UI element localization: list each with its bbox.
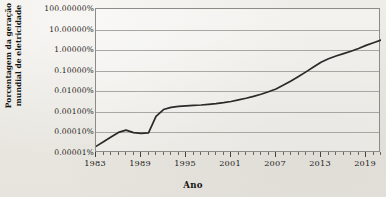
x-minor-tick [103, 152, 104, 155]
x-minor-tick [343, 152, 344, 155]
x-minor-tick [155, 152, 156, 155]
x-minor-tick [223, 152, 224, 155]
x-minor-tick [305, 152, 306, 155]
y-tick-label: 10.00000% [49, 24, 94, 33]
y-axis-title-line1: Porcentagem da geração [4, 0, 14, 121]
x-major-tick [275, 152, 276, 157]
x-minor-tick [260, 152, 261, 155]
x-minor-tick [335, 152, 336, 155]
x-tick-label: 1995 [174, 158, 196, 168]
x-tick-label: 2013 [309, 158, 331, 168]
x-minor-tick [215, 152, 216, 155]
x-minor-tick [283, 152, 284, 155]
data-series-line [96, 9, 381, 153]
x-minor-tick [208, 152, 209, 155]
y-tick-label: 100.00000% [44, 4, 94, 13]
x-minor-tick [358, 152, 359, 155]
x-major-tick [320, 152, 321, 157]
x-minor-tick [133, 152, 134, 155]
x-minor-tick [163, 152, 164, 155]
y-tick-label: 0.10000% [54, 65, 94, 74]
x-minor-tick [268, 152, 269, 155]
y-tick-label: 0.01000% [54, 86, 94, 95]
x-minor-tick [170, 152, 171, 155]
x-major-tick [365, 152, 366, 157]
x-minor-tick [245, 152, 246, 155]
x-minor-tick [110, 152, 111, 155]
x-major-tick [140, 152, 141, 157]
x-minor-tick [328, 152, 329, 155]
y-tick-label: 0.00001% [54, 148, 94, 157]
plot-area [95, 8, 380, 152]
x-tick-label: 2019 [354, 158, 376, 168]
x-axis-title: Ano [0, 180, 386, 190]
x-minor-tick [148, 152, 149, 155]
x-tick-label: 1989 [129, 158, 151, 168]
y-axis-title: Porcentagem da geração mundial de eletri… [4, 0, 23, 121]
x-major-tick [185, 152, 186, 157]
y-tick-label: 1.00000% [54, 45, 94, 54]
y-axis-title-line2: mundial de eletricidade [13, 0, 23, 121]
x-minor-tick [200, 152, 201, 155]
x-minor-tick [380, 152, 381, 155]
x-minor-tick [298, 152, 299, 155]
x-minor-tick [238, 152, 239, 155]
x-major-tick [95, 152, 96, 157]
x-minor-tick [290, 152, 291, 155]
x-tick-label: 2001 [219, 158, 241, 168]
y-tick-label: 0.00100% [54, 106, 94, 115]
x-minor-tick [118, 152, 119, 155]
x-minor-tick [373, 152, 374, 155]
x-minor-tick [125, 152, 126, 155]
x-minor-tick [313, 152, 314, 155]
x-minor-tick [350, 152, 351, 155]
chart-figure: 100.00000% 10.00000% 1.00000% 0.10000% 0… [0, 0, 386, 197]
x-major-tick [230, 152, 231, 157]
x-minor-tick [253, 152, 254, 155]
x-minor-tick [193, 152, 194, 155]
y-tick-label: 0.00010% [54, 127, 94, 136]
x-minor-tick [178, 152, 179, 155]
x-tick-label: 2007 [264, 158, 286, 168]
x-tick-label: 1983 [84, 158, 106, 168]
